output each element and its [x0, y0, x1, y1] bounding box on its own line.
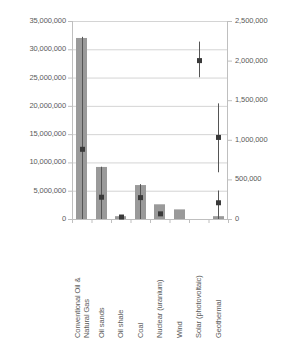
left-axis-tick-label: 30,000,000 [29, 44, 66, 53]
category-label-line: Wind [175, 321, 184, 338]
category-label-line: Coal [136, 323, 145, 338]
left-axis-tick-label: 0 [62, 214, 66, 223]
category-label: Coal [136, 323, 145, 338]
left-axis-tick-label: 35,000,000 [29, 16, 66, 25]
category-label-line: Solar (photovoltaic) [194, 275, 203, 338]
category-label-line: Conventional Oil & [73, 278, 82, 338]
category-label-line: Oil shale [116, 310, 125, 338]
right-axis-tick-label: 2,500,000 [235, 16, 267, 25]
right-axis-tick-label: 0 [235, 214, 239, 223]
bar [76, 38, 87, 219]
left-axis-tick-label: 25,000,000 [29, 73, 66, 82]
category-label: Solar (photovoltaic) [194, 275, 203, 338]
data-point-marker [216, 135, 221, 140]
data-point-marker [80, 147, 85, 152]
right-axis-tick-label: 1,000,000 [235, 135, 267, 144]
right-axis-tick-label: 1,500,000 [235, 95, 267, 104]
data-point-marker [158, 211, 163, 216]
data-point-marker [99, 195, 104, 200]
right-axis-tick-label: 500,000 [235, 174, 261, 183]
left-axis-tick-label: 15,000,000 [29, 129, 66, 138]
category-label: Oil shale [116, 310, 125, 338]
category-label-line: Nuclear (uranium) [155, 280, 164, 338]
plot-area-background [72, 21, 228, 219]
data-point-marker [197, 58, 202, 63]
category-label: Conventional Oil &Natural Gas [73, 278, 91, 338]
left-axis-tick-label: 20,000,000 [29, 101, 66, 110]
category-label-line: Oil sands [97, 308, 106, 338]
bar [174, 209, 185, 219]
left-axis-tick-label: 5,000,000 [34, 186, 66, 195]
category-label: Wind [175, 321, 184, 338]
category-label: Nuclear (uranium) [155, 280, 164, 338]
category-label-line: Natural Gas [82, 278, 91, 338]
data-point-marker [119, 215, 124, 220]
data-point-marker [216, 200, 221, 205]
data-point-marker [138, 195, 143, 200]
right-axis-tick-label: 2,000,000 [235, 56, 267, 65]
left-axis-tick-label: 10,000,000 [29, 157, 66, 166]
category-label: Geothermal [214, 300, 223, 338]
category-label: Oil sands [97, 308, 106, 338]
category-label-line: Geothermal [214, 300, 223, 338]
